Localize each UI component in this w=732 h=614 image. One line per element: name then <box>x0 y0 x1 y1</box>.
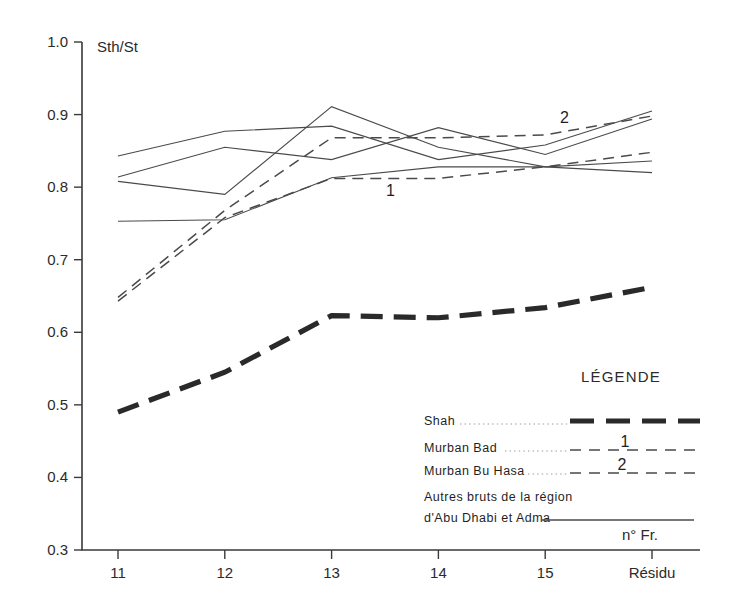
legend-number-1: 1 <box>621 433 630 450</box>
x-axis-ticks: 1112131415Résidu <box>110 564 675 581</box>
y-tick-label: 0.8 <box>47 178 68 195</box>
legend-number-2: 2 <box>618 456 627 473</box>
y-tick-label: 0.7 <box>47 251 68 268</box>
y-tick-label: 1.0 <box>47 33 68 50</box>
x-tick-label: 14 <box>430 564 447 581</box>
y-tick-label: 0.5 <box>47 396 68 413</box>
x-axis-title: n° Fr. <box>622 526 658 543</box>
legend-label-autres-bruts-line1: Autres bruts de la région <box>424 490 573 504</box>
x-tick-label: 15 <box>537 564 554 581</box>
legend-label-murban-bu-hasa: Murban Bu Hasa <box>424 464 525 478</box>
y-tick-label: 0.4 <box>47 468 68 485</box>
y-tick-label: 0.9 <box>47 106 68 123</box>
y-axis-tickmarks <box>74 42 82 550</box>
legend-title: LÉGENDE <box>581 368 661 385</box>
y-tick-label: 0.3 <box>47 541 68 558</box>
series-annotation: 2 <box>560 109 569 126</box>
y-tick-label: 0.6 <box>47 323 68 340</box>
series-line <box>118 111 652 160</box>
series-line <box>118 152 652 301</box>
x-axis-tickmarks <box>118 550 652 559</box>
legend: LÉGENDE Shah Murban Bad 1 Murban Bu Hasa… <box>424 368 700 525</box>
series-annotation: 1 <box>386 182 395 199</box>
series-line <box>118 287 652 412</box>
legend-label-shah: Shah <box>424 414 455 428</box>
x-tick-label: 11 <box>110 564 126 581</box>
x-tick-label: Résidu <box>629 564 676 581</box>
x-tick-label: 13 <box>323 564 340 581</box>
x-tick-label: 12 <box>216 564 233 581</box>
chart-svg: 0.30.40.50.60.70.80.91.0 1112131415Résid… <box>0 0 732 614</box>
legend-label-autres-bruts-line2: d'Abu Dhabi et Adma <box>424 511 551 525</box>
y-axis-ticks: 0.30.40.50.60.70.80.91.0 <box>47 33 68 558</box>
legend-label-murban-bad: Murban Bad <box>424 441 497 455</box>
chart-container: 0.30.40.50.60.70.80.91.0 1112131415Résid… <box>0 0 732 614</box>
data-series-group <box>118 107 652 413</box>
y-axis-title: Sth/St <box>97 38 139 55</box>
